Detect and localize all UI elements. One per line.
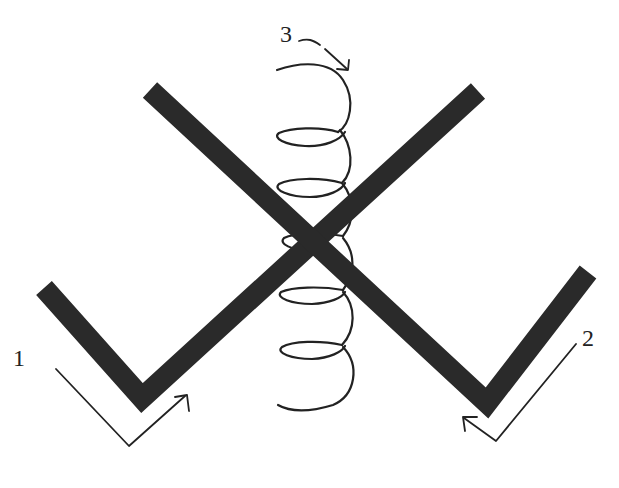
part-label-2: 2: [582, 326, 594, 350]
part-label-3: 3: [280, 22, 292, 46]
v-bar-2: [150, 90, 588, 403]
part-label-1: 1: [13, 346, 25, 370]
v-bar-1: [44, 91, 478, 398]
mechanism-diagram: [0, 0, 619, 488]
v-bars: [44, 90, 588, 403]
